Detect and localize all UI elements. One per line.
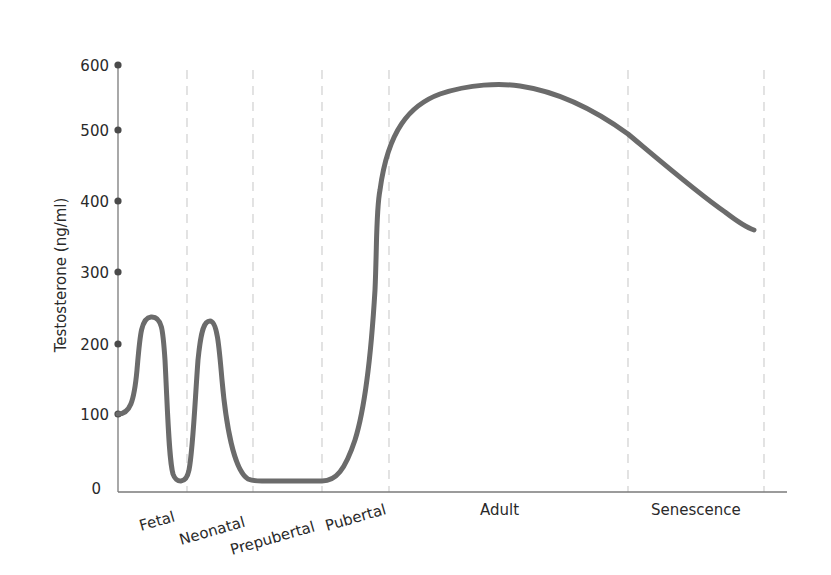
y-tick-400: 400 [80,193,109,211]
y-tick-600: 600 [80,57,109,75]
y-tick-200: 200 [80,336,109,354]
label-senescence: Senescence [651,501,741,519]
y-axis-label: Testosterone (ng/ml) [52,198,70,354]
label-pubertal: Pubertal [323,500,388,535]
testosterone-chart: 600 500 400 300 200 100 0 Testosterone (… [0,0,831,575]
x-category-labels: Fetal Neonatal Prepubertal Pubertal Adul… [137,500,741,559]
label-adult: Adult [480,501,519,519]
y-tick-0: 0 [91,480,101,498]
label-fetal: Fetal [137,508,177,535]
y-tick-labels: 600 500 400 300 200 100 0 [80,57,109,498]
y-tick-500: 500 [80,122,109,140]
y-tick-100: 100 [80,406,109,424]
testosterone-curve [118,85,754,482]
y-tick-300: 300 [80,264,109,282]
stage-dividers [187,70,764,492]
